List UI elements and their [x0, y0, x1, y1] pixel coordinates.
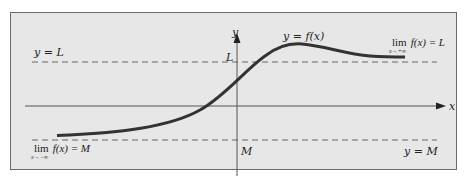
asymptote-lower-label: y = M [404, 146, 438, 157]
limit-subscript: x→+∞ [389, 48, 406, 54]
asymptote-upper-label: y = L [34, 47, 64, 58]
limit-expression: f(x) = M [53, 142, 90, 154]
y-axis-tick-M: M [241, 146, 252, 157]
limit-plus-infinity: limf(x) = L x→+∞ [392, 37, 445, 48]
limit-word: lim [34, 142, 49, 154]
limit-expression: f(x) = L [411, 36, 445, 48]
x-axis-label: x [449, 101, 455, 112]
limit-subscript: x→−∞ [31, 154, 48, 160]
limit-minus-infinity: limf(x) = M x→−∞ [34, 143, 90, 154]
y-axis-tick-L: L [226, 52, 233, 63]
y-axis-label: y [232, 27, 238, 38]
limit-word: lim [392, 36, 407, 48]
curve-label: y = f(x) [283, 31, 324, 42]
x-axis-arrow-icon [436, 103, 446, 110]
